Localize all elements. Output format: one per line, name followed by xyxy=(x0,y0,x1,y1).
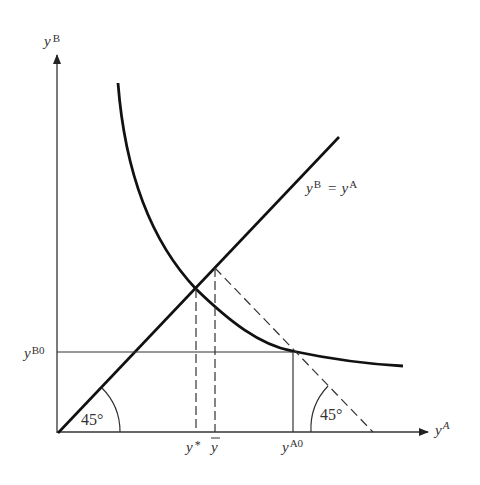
budget-dashed-line xyxy=(215,268,373,432)
y-a0-label: yA0 xyxy=(280,437,304,455)
y-bar-label: y xyxy=(209,439,218,455)
line-45-degree xyxy=(58,137,339,433)
y-b0-label: yB0 xyxy=(22,344,45,361)
angle-label-right: 45° xyxy=(320,406,342,423)
angle-label-origin: 45° xyxy=(81,411,103,428)
diagram-canvas: yB yA yB=yA 45° 45° yB0 y* y yA0 xyxy=(0,0,480,485)
x-axis-label: yA xyxy=(433,419,450,438)
y-axis-label: yB xyxy=(42,32,60,49)
y-star-label: y* xyxy=(184,438,201,455)
angle-arc-origin xyxy=(102,388,120,432)
line-45-label: yB=yA xyxy=(304,178,357,196)
